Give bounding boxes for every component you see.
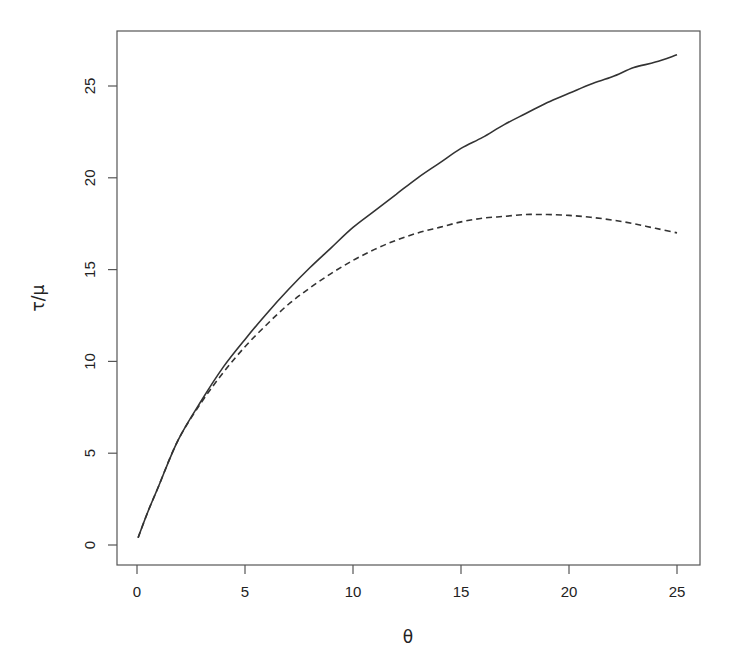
x-tick-label: 5 xyxy=(241,583,249,600)
y-axis-label: τ/μ xyxy=(28,284,48,311)
plot-area-frame xyxy=(117,31,700,565)
x-axis-label: θ xyxy=(403,627,413,647)
x-tick-label: 25 xyxy=(669,583,686,600)
y-tick-label: 5 xyxy=(81,449,98,457)
y-tick-label: 10 xyxy=(81,353,98,370)
x-axis-ticks: 0510152025 xyxy=(133,565,686,600)
x-tick-label: 20 xyxy=(561,583,578,600)
y-tick-label: 15 xyxy=(81,261,98,278)
x-tick-label: 10 xyxy=(345,583,362,600)
series-line-solid xyxy=(138,55,677,538)
series-lines xyxy=(138,55,677,538)
y-tick-label: 0 xyxy=(81,541,98,549)
y-tick-label: 20 xyxy=(81,169,98,186)
x-tick-label: 0 xyxy=(133,583,141,600)
chart: 0510152025 0510152025 θ τ/μ xyxy=(0,0,736,670)
series-line-dashed xyxy=(138,214,677,537)
y-axis-ticks: 0510152025 xyxy=(81,78,117,550)
y-tick-label: 25 xyxy=(81,78,98,95)
x-tick-label: 15 xyxy=(453,583,470,600)
